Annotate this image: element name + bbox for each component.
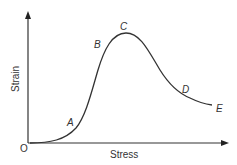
x-axis-arrow-icon xyxy=(221,140,229,146)
x-axis-label: Stress xyxy=(110,149,138,160)
point-label-a: A xyxy=(66,117,74,128)
y-axis-arrow-icon xyxy=(25,11,31,19)
origin-label: O xyxy=(20,143,28,154)
point-label-d: D xyxy=(182,84,189,95)
point-label-e: E xyxy=(216,103,223,114)
point-label-c: C xyxy=(120,21,128,32)
y-axis-label: Strain xyxy=(10,66,21,92)
stress-strain-diagram: O Stress Strain A B C D E xyxy=(0,0,237,165)
point-label-b: B xyxy=(94,39,101,50)
